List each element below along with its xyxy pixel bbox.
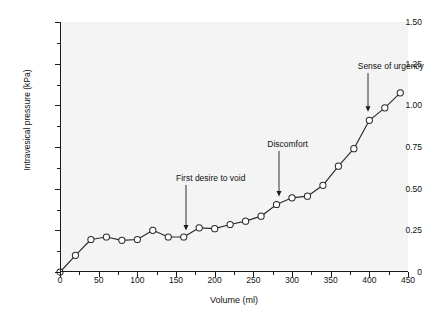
y-tick-major: [55, 22, 60, 23]
y-axis-line: [60, 22, 61, 272]
y-tick-label: 1.50: [374, 18, 422, 26]
x-tick-label: 100: [117, 276, 157, 285]
data-point-marker: [212, 226, 218, 232]
y-tick-major: [55, 105, 60, 106]
data-point-marker: [165, 234, 171, 240]
data-point-marker: [103, 234, 109, 240]
annotation-label: Sense of urgency: [358, 61, 424, 71]
x-tick-minor: [195, 272, 196, 275]
data-point-marker: [227, 221, 233, 227]
x-tick-minor: [79, 272, 80, 275]
annotation-arrow: [364, 73, 372, 112]
y-tick-minor: [57, 251, 60, 252]
x-tick-label: 450: [388, 276, 428, 285]
plot-area: [60, 22, 408, 272]
data-point-marker: [304, 193, 310, 199]
data-point-marker: [181, 234, 187, 240]
data-point-marker: [119, 237, 125, 243]
y-tick-label: 0.75: [374, 143, 422, 151]
x-tick-minor: [118, 272, 119, 275]
data-point-marker: [335, 163, 341, 169]
data-point-marker: [351, 146, 357, 152]
x-tick-label: 400: [349, 276, 389, 285]
data-point-marker: [134, 236, 140, 242]
annotation-arrow: [182, 185, 190, 231]
x-tick-label: 0: [40, 276, 80, 285]
y-tick-major: [55, 230, 60, 231]
y-tick-major: [55, 147, 60, 148]
x-tick-minor: [311, 272, 312, 275]
data-point-marker: [258, 213, 264, 219]
y-tick-label: 0.25: [374, 226, 422, 234]
data-point-marker: [273, 201, 279, 207]
x-tick-label: 150: [156, 276, 196, 285]
x-tick-label: 250: [233, 276, 273, 285]
data-point-marker: [88, 236, 94, 242]
data-point-marker: [72, 252, 78, 258]
y-tick-minor: [57, 43, 60, 44]
y-tick-label: 0.50: [374, 185, 422, 193]
y-tick-major: [55, 189, 60, 190]
x-tick-minor: [234, 272, 235, 275]
y-tick-major: [55, 64, 60, 65]
data-point-marker: [397, 90, 403, 96]
data-point-marker: [366, 117, 372, 123]
y-tick-minor: [57, 126, 60, 127]
x-tick-minor: [273, 272, 274, 275]
annotation-arrow: [275, 151, 283, 197]
x-tick-minor: [157, 272, 158, 275]
annotation-label: First desire to void: [176, 173, 245, 183]
x-axis-title: Volume (ml): [60, 295, 408, 305]
data-point-marker: [320, 182, 326, 188]
data-point-marker: [150, 227, 156, 233]
x-tick-label: 200: [195, 276, 235, 285]
data-point-marker: [243, 218, 249, 224]
data-point-marker: [196, 225, 202, 231]
y-axis-title: Intravesical pressure (kPa): [22, 45, 32, 195]
y-tick-minor: [57, 168, 60, 169]
data-point-marker: [289, 195, 295, 201]
arrow-icon: [364, 73, 372, 112]
y-tick-label: 1.00: [374, 101, 422, 109]
arrow-icon: [182, 185, 190, 231]
plot-svg: [60, 22, 408, 272]
x-tick-label: 350: [311, 276, 351, 285]
y-tick-minor: [57, 85, 60, 86]
x-tick-label: 300: [272, 276, 312, 285]
x-tick-minor: [350, 272, 351, 275]
annotation-label: Discomfort: [267, 139, 308, 149]
y-tick-minor: [57, 210, 60, 211]
x-tick-label: 50: [79, 276, 119, 285]
arrow-icon: [275, 151, 283, 197]
